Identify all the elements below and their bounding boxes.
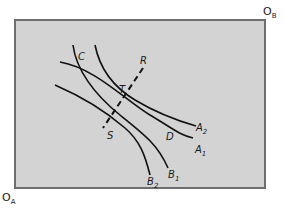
point-d-label: D (166, 131, 174, 142)
point-r-label: R (140, 55, 147, 66)
edgeworth-box (15, 20, 265, 188)
origin-a-label: OA (2, 191, 16, 206)
point-t-label: T (119, 84, 126, 95)
point-c-label: C (78, 51, 85, 62)
origin-b-label: OB (263, 5, 277, 20)
point-s-label: S (107, 130, 114, 141)
edgeworth-box-diagram: C T R S D A2 A1 B1 B2 OA OB (0, 0, 284, 210)
